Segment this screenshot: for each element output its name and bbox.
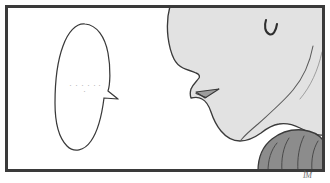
speech-bubble-text: ・・・・・・ ・ bbox=[68, 82, 102, 94]
panel-artwork bbox=[0, 0, 330, 183]
comic-panel-stage: ・・・・・・ ・ ÌM bbox=[0, 0, 330, 183]
artist-signature: ÌM bbox=[303, 171, 311, 180]
